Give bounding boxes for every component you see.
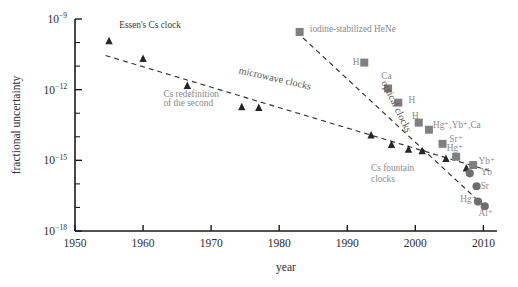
data-point-triangle xyxy=(105,37,112,45)
data-point-triangle xyxy=(238,103,245,111)
data-point-square xyxy=(296,28,304,36)
annotation-optical-clocks-band: optical clocks xyxy=(379,79,414,134)
annotation-label-Sr: Sr xyxy=(481,181,490,191)
annotation-iodine-stabilized-hene: iodine-stabilized HeNe xyxy=(310,24,396,34)
data-point-triangle xyxy=(255,103,262,111)
data-point-square xyxy=(469,161,477,169)
annotation-cs-fountain-clocks-2: clocks xyxy=(371,174,395,184)
annotation-label-H-1: H xyxy=(353,57,360,67)
annotation-label-Al-plus: Al⁺ xyxy=(479,208,493,218)
microwave-clocks-trend xyxy=(106,56,491,171)
annotation-label-Hg-plus-1: Hg⁺ xyxy=(447,143,463,153)
data-point-circle xyxy=(472,182,480,190)
annotation-cs-redefinition-2: of the second xyxy=(163,98,213,108)
data-point-triangle xyxy=(405,145,412,153)
annotation-label-Yb-plus: Yb⁺ xyxy=(479,156,495,166)
figure-container: 195019601970198019902000201010−910−1210−… xyxy=(0,0,518,287)
data-point-triangle xyxy=(442,155,449,163)
x-tick-label: 2010 xyxy=(472,237,495,249)
annotation-label-H-2: H xyxy=(409,95,416,105)
annotation-cs-fountain-clocks: Cs fountain xyxy=(371,163,414,173)
y-tick-label: 10−9 xyxy=(47,11,67,25)
x-tick-label: 2000 xyxy=(404,237,427,249)
data-point-square xyxy=(425,126,433,134)
annotation-essens-cs-clock: Essen's Cs clock xyxy=(119,20,181,30)
x-tick-label: 1980 xyxy=(268,237,291,249)
clock-uncertainty-chart: 195019601970198019902000201010−910−1210−… xyxy=(0,0,518,287)
y-tick-label: 10−15 xyxy=(44,153,68,167)
data-point-square xyxy=(452,153,460,161)
data-point-circle xyxy=(466,169,474,177)
x-tick-label: 1970 xyxy=(200,237,223,249)
data-point-square xyxy=(360,59,368,67)
annotation-label-Hg-plus-2: Hg⁺ xyxy=(460,194,476,204)
y-tick-label: 10−18 xyxy=(44,223,68,237)
annotation-label-Yb: Yb xyxy=(481,167,493,177)
annotation-label-Ca-1: Ca xyxy=(381,71,391,81)
annotation-label-H-3: H xyxy=(412,111,419,121)
x-tick-label: 1960 xyxy=(132,237,155,249)
annotation-label-HgYbCa: Hg⁺,Yb⁺,Ca xyxy=(433,120,481,130)
x-tick-label: 1950 xyxy=(64,237,87,249)
data-point-triangle xyxy=(139,54,146,62)
y-tick-label: 10−12 xyxy=(44,82,68,96)
annotation-microwave-clocks-band: microwave clocks xyxy=(238,64,312,91)
y-axis-label: fractional uncertainty xyxy=(10,75,23,174)
x-axis-label: year xyxy=(276,261,296,274)
data-point-square xyxy=(439,140,447,148)
x-tick-label: 1990 xyxy=(336,237,359,249)
